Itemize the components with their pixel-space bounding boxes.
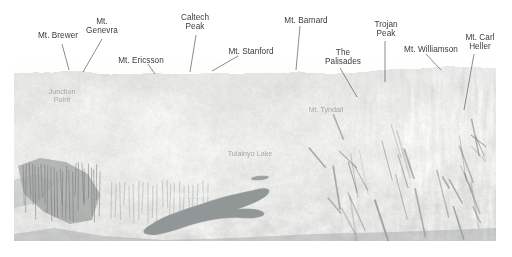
callout-mt-ericsson: Mt. Ericsson	[112, 56, 170, 65]
terrain-image	[14, 62, 496, 241]
callout-line: Mt. Stanford	[222, 47, 280, 56]
callout-line: Palisades	[320, 57, 366, 66]
callout-mt-brewer: Mt. Brewer	[30, 31, 86, 40]
callout-line: Peak	[172, 22, 218, 31]
callout-line: Trojan	[365, 20, 407, 29]
callout-line: The	[320, 48, 366, 57]
callout-line: Mt. Barnard	[278, 16, 334, 25]
callout-line: Mt. Carl	[456, 33, 504, 42]
callout-mt-williamson: Mt. Williamson	[398, 45, 464, 54]
callout-line: Mt.	[82, 17, 122, 26]
callout-the-palisades: ThePalisades	[320, 48, 366, 67]
callout-line: Mt. Williamson	[398, 45, 464, 54]
callout-trojan-peak: TrojanPeak	[365, 20, 407, 39]
callout-mt-stanford: Mt. Stanford	[222, 47, 280, 56]
callout-mt-carl-heller: Mt. CarlHeller	[456, 33, 504, 52]
callout-line: Mt. Brewer	[30, 31, 86, 40]
callout-line: Caltech	[172, 13, 218, 22]
callout-line: Mt. Ericsson	[112, 56, 170, 65]
callout-mt-barnard: Mt. Barnard	[278, 16, 334, 25]
callout-line: Genevra	[82, 26, 122, 35]
panorama-photo: JunctionPointMt. TyndallTulainyo LakeWal…	[14, 62, 496, 241]
callout-line: Heller	[456, 42, 504, 51]
callout-caltech-peak: CaltechPeak	[172, 13, 218, 32]
callout-line: Peak	[365, 29, 407, 38]
panorama-figure: JunctionPointMt. TyndallTulainyo LakeWal…	[0, 0, 512, 257]
callout-mt-genevra: Mt.Genevra	[82, 17, 122, 36]
